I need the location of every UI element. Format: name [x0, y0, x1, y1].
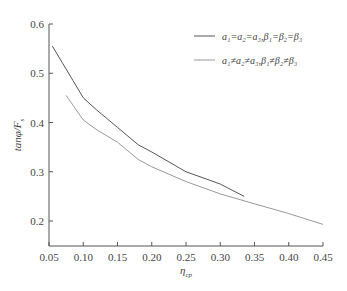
- y-tick-label: 0.4: [30, 117, 44, 129]
- x-tick-label: 0.40: [279, 251, 299, 263]
- legend: a₁=a₂=a₃,β₁=β₂=β₃ a₁≠a₂≠a₃,β₁≠β₂≠β₃: [194, 31, 303, 66]
- x-tick-label: 0.25: [176, 251, 196, 263]
- series-line-1: [52, 46, 244, 196]
- series-lines: [52, 46, 323, 224]
- x-tick-label: 0.20: [142, 251, 162, 263]
- x-tick-label: 0.10: [74, 251, 94, 263]
- x-tick-label: 0.35: [245, 251, 265, 263]
- y-tick-label: 0.2: [30, 215, 44, 227]
- line-chart: 0.20.30.40.50.6 0.050.100.150.200.250.30…: [0, 0, 347, 291]
- x-tick-label: 0.05: [39, 251, 59, 263]
- y-tick-label: 0.3: [30, 166, 44, 178]
- x-ticks: 0.050.100.150.200.250.300.350.400.45: [39, 242, 333, 263]
- x-tick-label: 0.30: [211, 251, 231, 263]
- y-axis-label: tanφ/Fs: [11, 118, 26, 151]
- y-axis-label-sub: s: [18, 118, 26, 121]
- x-tick-label: 0.45: [313, 251, 333, 263]
- legend-label-series-1: a₁=a₂=a₃,β₁=β₂=β₃: [222, 31, 303, 42]
- x-tick-label: 0.15: [108, 251, 128, 263]
- series-line-2: [66, 95, 323, 224]
- x-axis-label-sub: cp: [185, 271, 192, 279]
- x-axis-label: ηcp: [180, 264, 193, 279]
- y-tick-label: 0.6: [30, 18, 44, 30]
- y-axis-label-main: tanφ/F: [11, 121, 23, 151]
- y-tick-label: 0.5: [30, 67, 44, 79]
- y-ticks: 0.20.30.40.50.6: [30, 18, 53, 227]
- legend-label-series-2: a₁≠a₂≠a₃,β₁≠β₂≠β₃: [222, 55, 298, 66]
